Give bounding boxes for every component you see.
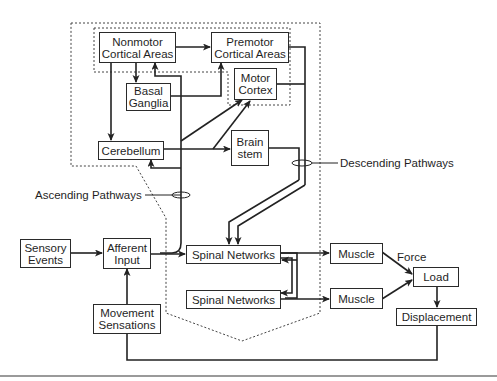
edge-brainstem-descending [268,148,299,180]
label-force: Force [397,251,426,263]
box-basal-ganglia: Basal Ganglia [126,83,171,111]
box-muscle-1: Muscle [330,243,383,264]
edge-muscle2-load [382,280,412,299]
box-label: Muscle [338,248,374,260]
box-brain-stem: Brain stem [231,130,269,166]
edge-descending-spinal-a [229,180,299,244]
label-descending-pathways: Descending Pathways [340,157,454,169]
box-label: Motor [241,72,270,84]
edge-spinal1-spinal2 [281,258,292,293]
box-afferent-input: Afferent Input [103,238,151,269]
box-sensory-events: Sensory Events [20,239,71,268]
box-label: Spinal Networks [192,294,275,306]
box-label: Premotor [226,36,273,48]
box-label: Sensations [99,319,156,331]
edge-premotor-descending [288,47,305,185]
edge-ascending-cerebellum [151,160,181,168]
box-label: Afferent [107,242,147,254]
box-label: Basal [134,85,163,97]
box-label: Muscle [338,293,374,305]
box-label: Cortex [239,84,273,96]
box-label: stem [238,148,263,160]
box-label: Input [114,254,140,266]
box-muscle-2: Muscle [330,288,383,309]
edge-basal-premotor [170,63,221,96]
box-label: Ganglia [129,97,169,109]
box-label: Spinal Networks [192,249,275,261]
box-label: Load [423,271,449,283]
edge-displacement-feedback [127,325,437,360]
descending-pathways-ellipse [292,160,312,166]
box-cerebellum: Cerebellum [98,141,164,160]
label-ascending-pathways: Ascending Pathways [35,189,142,201]
box-label: Nonmotor [112,36,163,48]
edge-descending-spinal-b [238,185,305,244]
box-label: Sensory [24,242,66,254]
box-displacement: Displacement [396,308,477,326]
box-spinal-networks-2: Spinal Networks [186,290,281,309]
box-label: Movement [100,307,154,319]
box-label: Brain [237,136,264,148]
box-label: Displacement [402,311,472,323]
box-label: Cortical Areas [214,48,286,60]
box-movement-sensations: Movement Sensations [93,304,161,334]
box-label: Events [28,254,63,266]
box-load: Load [413,267,459,287]
box-premotor-cortical-areas: Premotor Cortical Areas [211,32,289,63]
box-nonmotor-cortical-areas: Nonmotor Cortical Areas [99,32,176,63]
bottom-separator [0,375,497,377]
box-spinal-networks-1: Spinal Networks [186,245,281,264]
box-motor-cortex: Motor Cortex [234,68,277,100]
box-label: Cortical Areas [102,48,174,60]
box-label: Cerebellum [102,145,161,157]
